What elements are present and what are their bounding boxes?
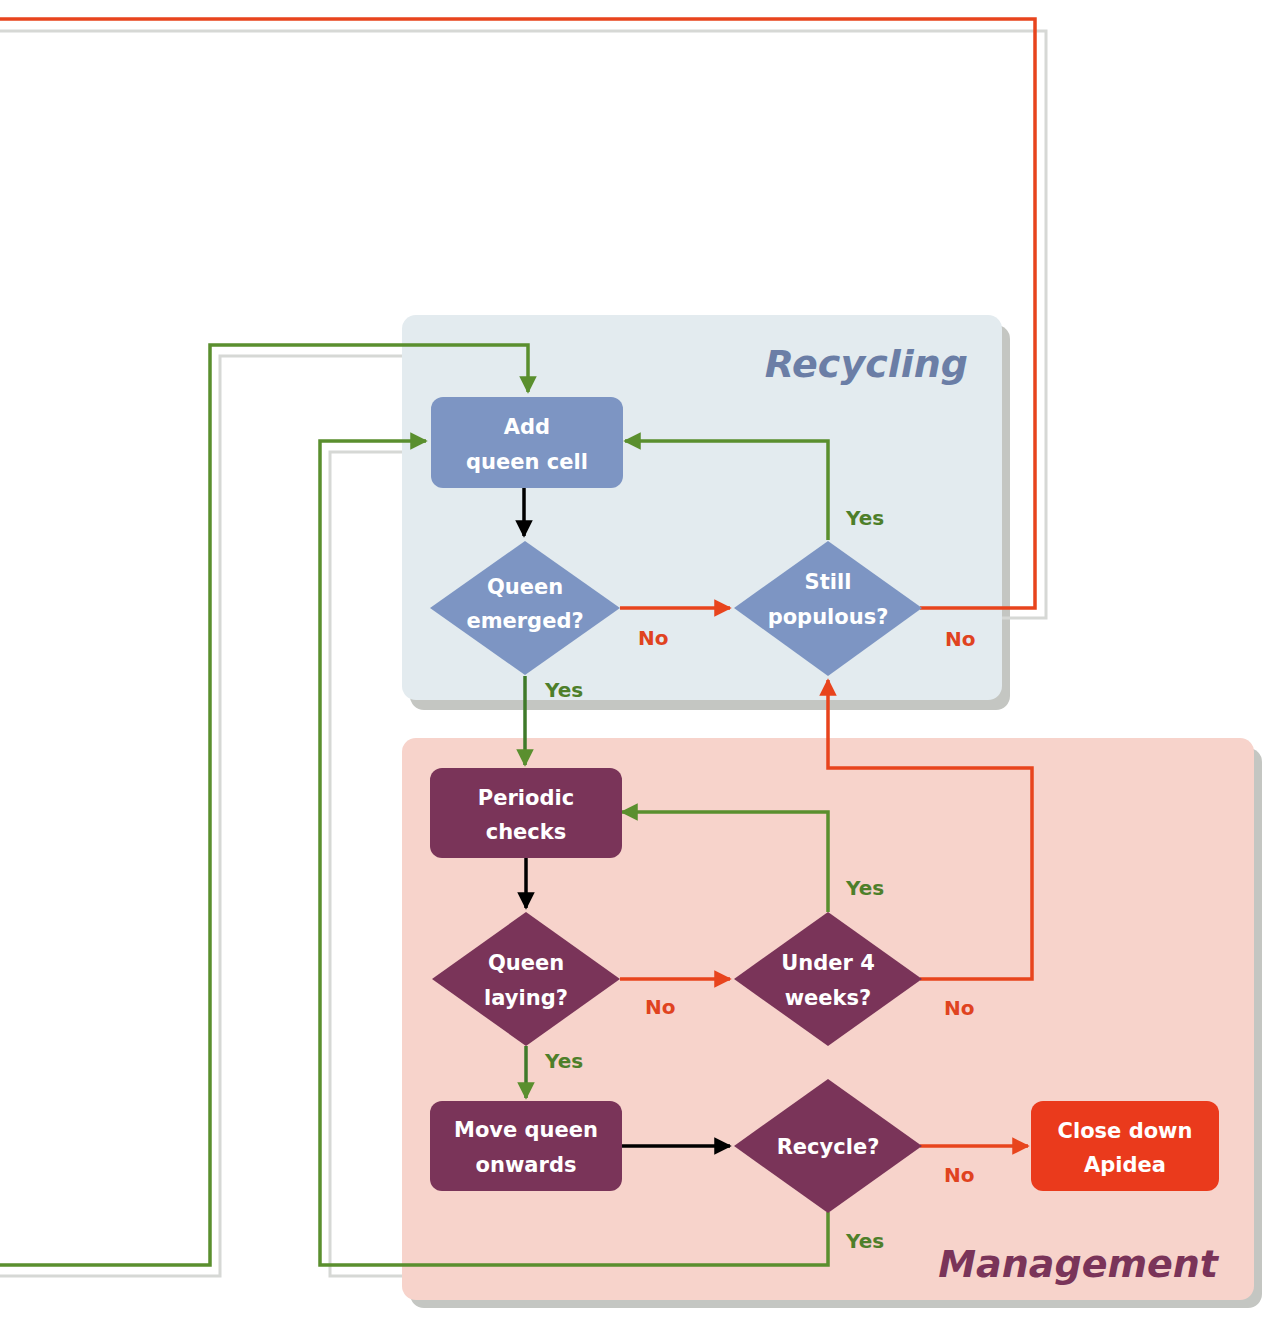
label-recycle-yes: Yes: [845, 1229, 884, 1253]
svg-text:weeks?: weeks?: [785, 986, 872, 1010]
svg-text:laying?: laying?: [484, 986, 568, 1010]
label-under-4-weeks-no: No: [944, 996, 974, 1020]
svg-text:Move queen: Move queen: [454, 1118, 598, 1142]
management-panel-title: Management: [938, 1242, 1220, 1286]
svg-text:Periodic: Periodic: [478, 786, 574, 810]
svg-text:Recycle?: Recycle?: [777, 1135, 880, 1159]
label-still-populous-yes: Yes: [845, 506, 884, 530]
svg-text:Still: Still: [805, 570, 852, 594]
label-still-populous-no: No: [945, 627, 975, 651]
svg-text:onwards: onwards: [476, 1153, 577, 1177]
node-close-down-apidea: Close down Apidea: [1031, 1101, 1219, 1191]
svg-text:Add: Add: [504, 415, 550, 439]
label-queen-emerged-yes: Yes: [544, 678, 583, 702]
node-add-queen-cell: Add queen cell: [431, 397, 623, 488]
node-periodic-checks: Periodic checks: [430, 768, 622, 858]
label-queen-emerged-no: No: [638, 626, 668, 650]
svg-text:populous?: populous?: [768, 605, 889, 629]
svg-text:checks: checks: [486, 820, 567, 844]
svg-text:Under 4: Under 4: [781, 951, 875, 975]
recycling-panel-title: Recycling: [765, 342, 968, 386]
flowchart: Recycling Management Add queen cell Que: [0, 0, 1286, 1340]
svg-text:Close down: Close down: [1058, 1119, 1193, 1143]
svg-text:queen cell: queen cell: [466, 450, 588, 474]
svg-text:Queen: Queen: [487, 575, 563, 599]
svg-text:emerged?: emerged?: [466, 609, 583, 633]
svg-text:Queen: Queen: [488, 951, 564, 975]
svg-text:Apidea: Apidea: [1084, 1153, 1166, 1177]
label-queen-laying-yes: Yes: [544, 1049, 583, 1073]
node-move-queen-onwards: Move queen onwards: [430, 1101, 622, 1191]
label-recycle-no: No: [944, 1163, 974, 1187]
label-queen-laying-no: No: [645, 995, 675, 1019]
label-under-4-weeks-yes: Yes: [845, 876, 884, 900]
